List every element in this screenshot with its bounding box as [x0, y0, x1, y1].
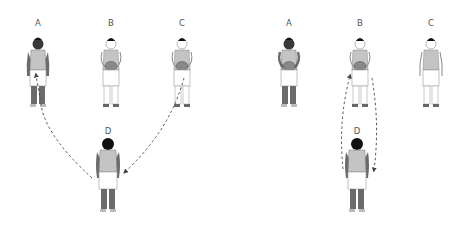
drill-diagram — [0, 0, 465, 226]
player-label: C — [428, 18, 434, 28]
player-a-left — [27, 38, 50, 108]
player-label: B — [108, 18, 114, 28]
player-d-right — [345, 138, 369, 212]
player-d-left — [96, 138, 120, 212]
player-label: A — [35, 18, 41, 28]
player-label: D — [105, 126, 112, 136]
left-panel — [27, 38, 192, 213]
player-label: B — [357, 18, 363, 28]
player-b-left — [101, 38, 121, 107]
right-panel — [279, 38, 442, 213]
player-a-right — [279, 38, 299, 108]
player-label: A — [286, 18, 292, 28]
player-c-left — [172, 38, 192, 107]
player-label: C — [179, 18, 185, 28]
pass-arrow-b-to-d — [372, 78, 377, 170]
player-c-right — [420, 38, 443, 107]
player-b-right — [350, 38, 370, 107]
player-label: D — [354, 126, 361, 136]
